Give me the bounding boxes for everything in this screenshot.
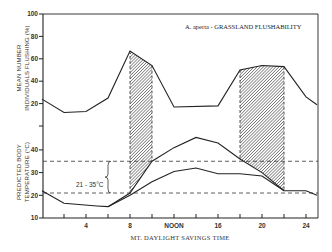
svg-text:INDIVIDUALS FLUSHING (%): INDIVIDUALS FLUSHING (%): [24, 25, 30, 110]
svg-text:PREDICTED BODY: PREDICTED BODY: [16, 144, 22, 200]
temperature-range-annotation: 21 - 35°C: [76, 161, 111, 193]
svg-text:TEMPERATURE (°C): TEMPERATURE (°C): [24, 142, 30, 203]
y-tick-label: 100: [27, 10, 38, 17]
y-tick-label: 10: [31, 214, 39, 221]
x-tick-label: 16: [214, 222, 222, 229]
y-tick-label: 80: [31, 33, 39, 40]
y-tick-label: 60: [31, 55, 39, 62]
y-tick-label: 40: [31, 146, 39, 153]
x-tick-label: NOON: [164, 222, 184, 229]
x-tick-label: 24: [302, 222, 310, 229]
shaded-band: [130, 51, 152, 193]
y-tick-label: 20: [31, 192, 39, 199]
y-tick-label: 20: [31, 100, 39, 107]
y-tick-label: 40: [31, 77, 39, 84]
y-axis-label-bottom: PREDICTED BODY TEMPERATURE (°C): [16, 142, 30, 203]
x-tick-label: 8: [128, 222, 132, 229]
brace-icon: [105, 161, 111, 193]
y-tick-label: 30: [31, 169, 39, 176]
chart-title: A. aperta - GRASSLAND FLUSHABILITY: [185, 23, 302, 30]
chart-figure: 204060801001020304048NOON162024 A. apert…: [0, 0, 332, 252]
x-axis-label: MT. DAYLIGHT SAVINGS TIME: [130, 234, 229, 241]
svg-text:MEAN NUMBER: MEAN NUMBER: [16, 44, 22, 92]
y-axis-label-top: MEAN NUMBER INDIVIDUALS FLUSHING (%): [16, 25, 30, 110]
range-label: 21 - 35°C: [76, 181, 104, 188]
flushability-chart: 204060801001020304048NOON162024 A. apert…: [0, 0, 332, 252]
x-tick-label: 20: [258, 222, 266, 229]
x-tick-label: 4: [84, 222, 88, 229]
